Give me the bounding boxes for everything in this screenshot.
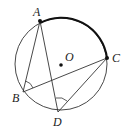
label-b: B	[12, 91, 20, 105]
circle-diagram: A C B D O	[0, 0, 129, 130]
angle-mark-d	[56, 98, 67, 101]
segment-dc	[58, 58, 107, 112]
label-d: D	[52, 115, 62, 129]
angle-mark-b	[26, 81, 34, 88]
segment-ad	[40, 21, 58, 112]
geometry-figure: A C B D O	[0, 0, 129, 130]
center-o-dot	[59, 63, 63, 67]
label-o: O	[65, 50, 74, 64]
point-c-dot	[105, 56, 109, 60]
label-a: A	[32, 5, 41, 19]
point-a-dot	[38, 19, 42, 23]
label-c: C	[112, 51, 121, 65]
